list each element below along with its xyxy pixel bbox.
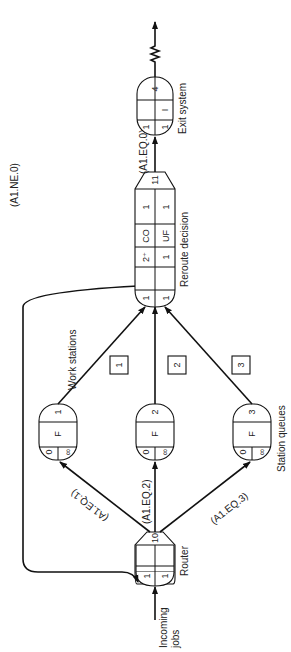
reroute-label: Reroute decision	[179, 212, 190, 287]
reroute-r1c3: 2⁺	[141, 252, 151, 262]
q2-number: 2	[150, 409, 160, 414]
reroute-r2c5: 1	[161, 204, 171, 209]
reroute-r2c4: UF	[161, 230, 171, 242]
diagram-canvas: Incoming jobs 10 1 1 Router (A1.NE.0) (A…	[0, 0, 291, 652]
q1-number: 1	[53, 409, 63, 414]
exit-edge-label: (A1.EQ.0)	[138, 130, 149, 174]
q1-discipline: F	[53, 431, 63, 437]
incoming-label: Incoming	[158, 607, 169, 648]
q2-capacity: ∞	[160, 449, 170, 455]
edge-q1-label: (A1.EQ.1)	[68, 488, 110, 524]
station-queues-label: Station queues	[276, 405, 287, 472]
incoming-label-2: jobs	[170, 630, 181, 649]
exit-r2c2: I	[160, 109, 170, 112]
q2-initial: 0	[141, 449, 151, 454]
router-top: 10	[150, 533, 160, 543]
router-cell-1: 1	[142, 573, 152, 578]
q3-discipline: F	[247, 431, 257, 437]
edge-q3-label: (A1.EQ.3)	[208, 490, 250, 526]
work-station-3-label: 3	[236, 362, 246, 367]
router-cell-2: 1	[160, 573, 170, 578]
reroute-top: 11	[150, 175, 160, 184]
exit-top: 4	[150, 86, 160, 91]
exit-label: Exit system	[177, 83, 188, 134]
q1-capacity: ∞	[63, 449, 73, 455]
reroute-r1c4: CO	[141, 229, 151, 243]
reroute-r2c3: 1	[161, 254, 171, 259]
q1-initial: 0	[44, 449, 54, 454]
loop-edge-label: (A1.NE.0)	[9, 163, 20, 207]
exit-r1c1: 1	[141, 124, 151, 129]
exit-r2c1: 1	[160, 124, 170, 129]
work-station-2-label: 2	[172, 362, 182, 367]
reroute-r2c1: 1	[161, 295, 171, 300]
reroute-r1c1: 1	[141, 295, 151, 300]
reroute-r1c5: 1	[141, 204, 151, 209]
q3-number: 3	[247, 409, 257, 414]
exit-sink-arrow	[151, 22, 159, 77]
q3-capacity: ∞	[257, 449, 267, 455]
router-label: Router	[179, 545, 190, 576]
work-stations-label: Work stations	[67, 330, 78, 390]
edge-q2-label: (A1.EQ.2)	[141, 480, 152, 524]
q3-initial: 0	[238, 449, 248, 454]
q2-discipline: F	[150, 431, 160, 437]
work-station-1-label: 1	[114, 362, 124, 367]
